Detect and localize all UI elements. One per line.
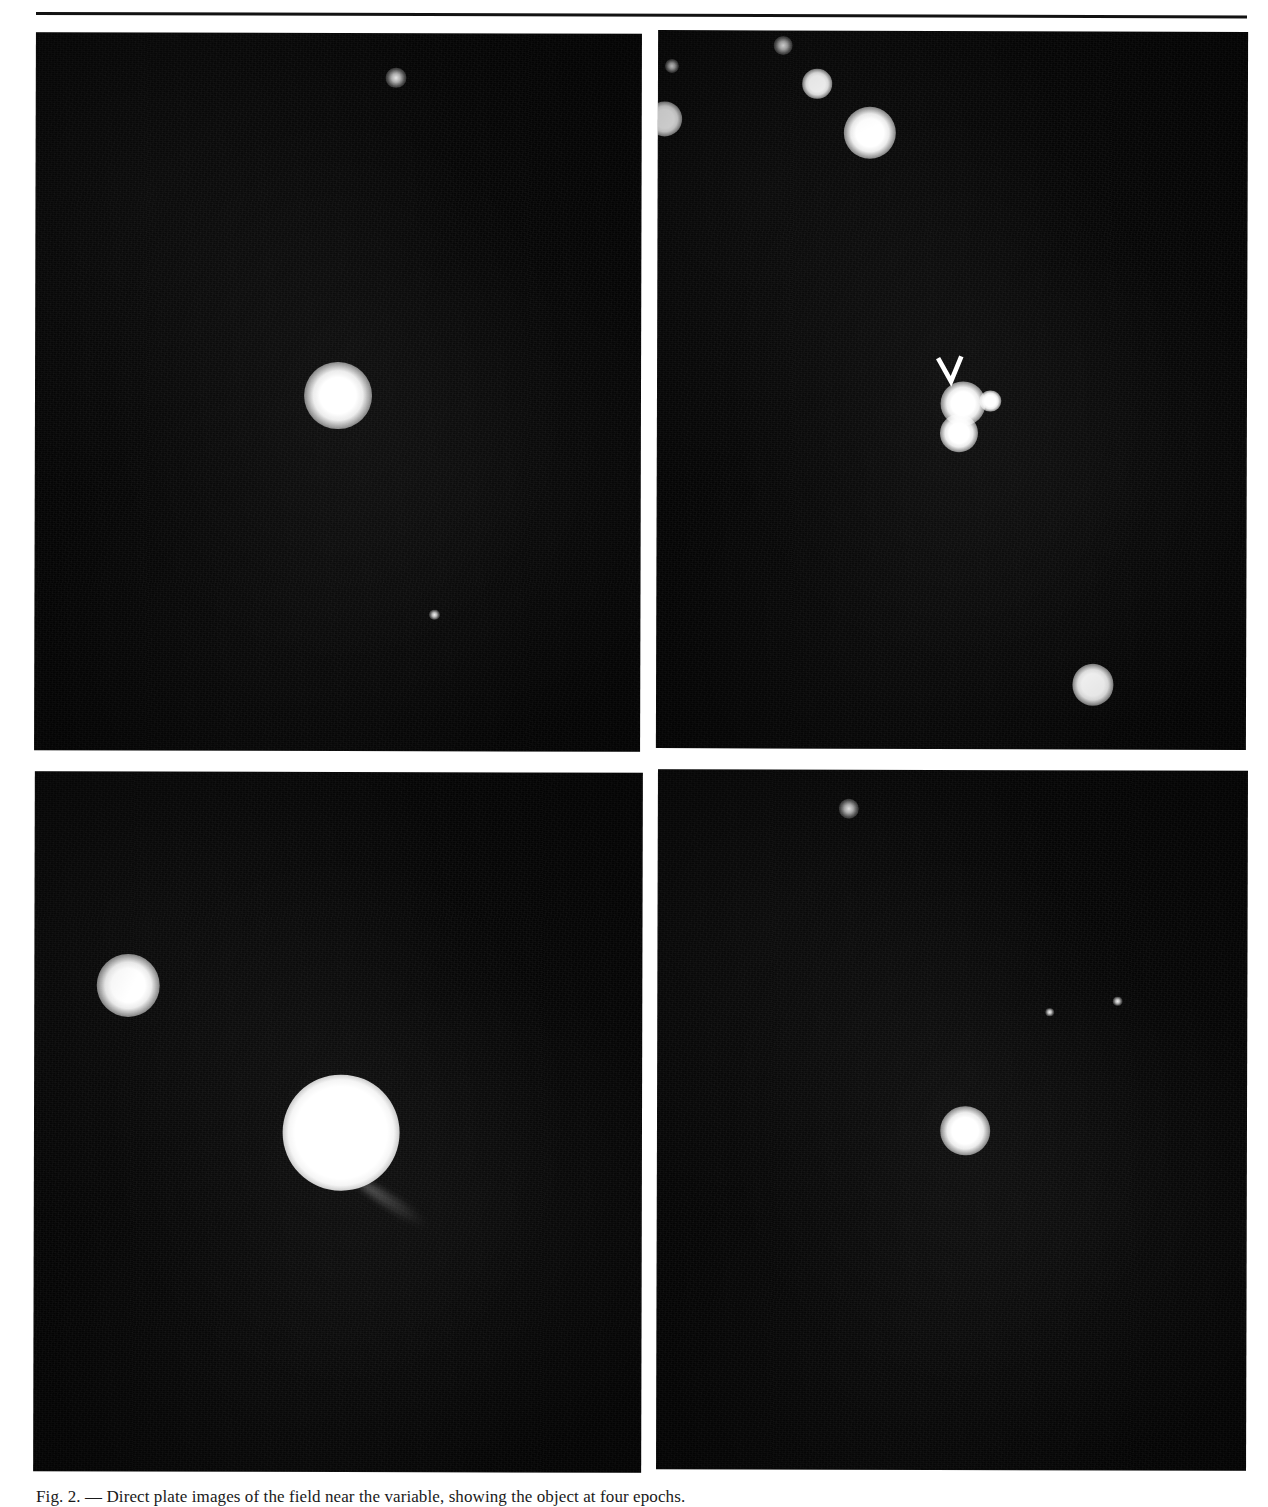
star-se-marker (1072, 664, 1113, 705)
faint-star-n-marker (838, 799, 858, 819)
star-edge-w-marker (656, 101, 683, 137)
plate-panel-top-left (34, 32, 642, 752)
star-nw-marker (802, 69, 832, 99)
faint-star-e-marker (1113, 997, 1122, 1006)
primary-star-marker (940, 1106, 990, 1156)
star-layer-top-left (36, 32, 642, 34)
bright-star-n-marker (844, 107, 896, 159)
star-layer-bottom-right (658, 769, 1248, 771)
faint-star-n-marker (665, 59, 679, 73)
faint-star-nw-marker (774, 36, 793, 55)
figure-caption: Fig. 2. — Direct plate images of the fie… (36, 1486, 1216, 1507)
plate-panel-bottom-right (656, 769, 1248, 1471)
lower-star-marker (940, 414, 978, 452)
marker-layer-top-right (658, 30, 1248, 32)
plate-panel-top-right (656, 30, 1248, 750)
faint-streak-marker (1046, 1008, 1054, 1016)
star-layer-bottom-left (35, 771, 643, 772)
companion-star-nw-marker (97, 953, 160, 1016)
faint-star-2-marker (429, 609, 440, 620)
figure-caption-text: Fig. 2. — Direct plate images of the fie… (36, 1487, 685, 1506)
diffuse-tail (356, 1176, 432, 1232)
pointer-arrow-icon (934, 355, 968, 389)
star-layer-top-right (658, 30, 1248, 32)
companion-star-marker (980, 390, 1001, 411)
primary-star-marker (304, 362, 372, 430)
bright-saturated-object-marker (282, 1074, 399, 1191)
faint-star-1-marker (385, 67, 406, 88)
plate-panel-bottom-left (33, 771, 643, 1472)
